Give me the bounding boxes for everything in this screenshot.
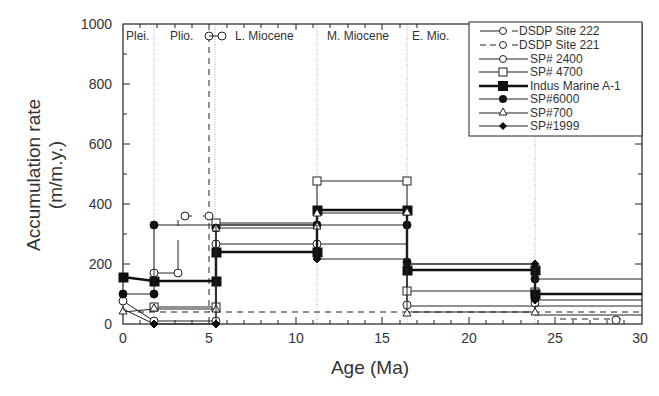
legend-item-indus-marine-a1: Indus Marine A-1 [479,79,621,93]
epoch-labels: Plei. Plio. L. Miocene M. Miocene E. Mio… [126,29,449,43]
svg-text:5: 5 [205,330,213,346]
svg-text:15: 15 [374,330,390,346]
indus-marine-a1-markers [119,206,540,299]
x-tick-labels: 0 5 10 15 20 25 30 [119,330,648,346]
x-axis-title: Age (Ma) [331,357,409,378]
series-indus-marine-a1 [123,210,642,294]
svg-text:20: 20 [461,330,477,346]
svg-text:DSDP Site 221: DSDP Site 221 [519,38,600,52]
svg-text:M. Miocene: M. Miocene [327,29,389,43]
sp-700-markers [119,208,539,316]
svg-text:800: 800 [89,76,113,92]
svg-text:DSDP Site 222: DSDP Site 222 [519,24,600,38]
y-axis-title: Accumulation rate (m/m.y.) [23,99,66,251]
svg-text:0: 0 [104,316,112,332]
svg-text:200: 200 [89,256,113,272]
y-tick-labels: 0 200 400 600 800 1000 [81,16,112,332]
series-sp-700 [123,213,642,312]
svg-text:400: 400 [89,196,113,212]
svg-text:SP#6000: SP#6000 [530,92,580,106]
svg-text:30: 30 [632,330,648,346]
svg-text:(m/m.y.): (m/m.y.) [45,141,66,209]
svg-text:SP# 4700: SP# 4700 [530,65,583,79]
svg-text:Plei.: Plei. [126,29,149,43]
svg-text:600: 600 [89,136,113,152]
svg-text:25: 25 [547,330,563,346]
svg-text:Accumulation rate: Accumulation rate [23,99,44,251]
svg-text:0: 0 [119,330,127,346]
series-dsdp-site-222 [154,36,222,273]
svg-text:SP#700: SP#700 [530,106,573,120]
svg-text:E. Mio.: E. Mio. [412,29,449,43]
svg-text:Plio.: Plio. [170,29,193,43]
svg-text:SP# 2400: SP# 2400 [530,52,583,66]
legend: DSDP Site 222 DSDP Site 221 SP# 2400 SP#… [469,22,642,136]
svg-text:10: 10 [288,330,304,346]
svg-text:1000: 1000 [81,16,112,32]
accumulation-rate-chart: Accumulation rate (m/m.y.) Age (Ma) 0 20… [0,0,659,396]
svg-text:Indus Marine A-1: Indus Marine A-1 [530,79,621,93]
svg-text:L. Miocene: L. Miocene [235,29,294,43]
svg-text:SP#1999: SP#1999 [530,119,580,133]
